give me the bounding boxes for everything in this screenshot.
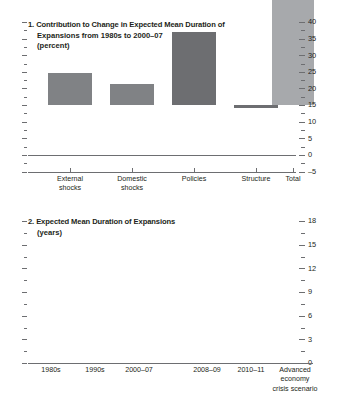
left-tick-minor xyxy=(24,30,27,31)
right-tick-major xyxy=(299,339,305,340)
right-tick-major xyxy=(299,138,305,139)
left-tick-major xyxy=(22,105,27,106)
x-tick xyxy=(293,168,294,172)
x-axis-label-domestic-shocks: Domestic shocks xyxy=(97,175,167,194)
panel-2: 2.Expected Mean Duration of Expansions (… xyxy=(0,200,349,410)
right-axis-label: 18 xyxy=(308,217,316,224)
right-tick-minor xyxy=(301,163,305,164)
right-tick-minor xyxy=(301,328,305,329)
x-axis-label-line: Domestic xyxy=(97,175,167,184)
x-axis-label-line: 2000–07 xyxy=(104,366,174,375)
x-axis-label-policies: Policies xyxy=(159,175,229,184)
right-tick-minor xyxy=(301,257,305,258)
left-tick-minor xyxy=(24,130,27,131)
left-tick-minor xyxy=(24,257,27,258)
left-tick-minor xyxy=(24,64,27,65)
right-tick-minor xyxy=(301,113,305,114)
left-tick-major xyxy=(22,268,27,269)
left-tick-major xyxy=(22,39,27,40)
left-tick-major xyxy=(22,122,27,123)
left-tick-major xyxy=(22,172,27,173)
right-tick-major xyxy=(299,172,305,173)
left-tick-minor xyxy=(24,304,27,305)
right-axis-label: 15 xyxy=(308,101,316,108)
left-tick-major xyxy=(22,72,27,73)
left-tick-major xyxy=(22,138,27,139)
right-axis-label: 10 xyxy=(308,118,316,125)
right-tick-minor xyxy=(301,30,305,31)
left-tick-major xyxy=(22,292,27,293)
right-axis-label: 15 xyxy=(308,241,316,248)
right-axis-label: 9 xyxy=(308,288,312,295)
right-axis-label: 35 xyxy=(308,35,316,42)
panel-2-title-line1: 2.Expected Mean Duration of Expansions xyxy=(28,217,175,228)
right-tick-major xyxy=(299,22,305,23)
x-tick xyxy=(132,168,133,172)
panel-2-title-text: Expected Mean Duration of Expansions xyxy=(36,217,175,226)
right-tick-major xyxy=(299,105,305,106)
right-tick-major xyxy=(299,292,305,293)
right-tick-major xyxy=(299,55,305,56)
right-tick-major xyxy=(299,268,305,269)
x-axis-label-external-shocks: External shocks xyxy=(35,175,105,194)
left-tick-minor xyxy=(24,47,27,48)
x-axis-label-line: Total xyxy=(258,175,328,184)
right-tick-minor xyxy=(301,97,305,98)
right-tick-minor xyxy=(301,233,305,234)
left-tick-major xyxy=(22,55,27,56)
right-tick-major xyxy=(299,221,305,222)
right-tick-minor xyxy=(301,147,305,148)
left-tick-minor xyxy=(24,147,27,148)
right-axis-label: 20 xyxy=(308,85,316,92)
right-tick-minor xyxy=(301,304,305,305)
panel-1-x-axis xyxy=(28,172,296,173)
left-tick-major xyxy=(22,339,27,340)
right-tick-major xyxy=(299,72,305,73)
left-tick-major xyxy=(22,22,27,23)
right-tick-major xyxy=(299,245,305,246)
x-axis-label-line: shocks xyxy=(97,184,167,193)
left-tick-minor xyxy=(24,328,27,329)
x-axis-label-2000-07: 2000–07 xyxy=(104,366,174,375)
right-axis-label: 12 xyxy=(308,265,316,272)
x-axis-label-line: External xyxy=(35,175,105,184)
bar-external-shocks xyxy=(48,73,92,105)
right-axis-label: 0 xyxy=(308,151,312,158)
x-tick xyxy=(194,168,195,172)
left-tick-minor xyxy=(24,351,27,352)
panel-1: 1.Contribution to Change in Expected Mea… xyxy=(0,0,349,200)
panel-1-plot xyxy=(28,22,296,172)
x-tick xyxy=(256,168,257,172)
x-axis-label-line: Policies xyxy=(159,175,229,184)
right-tick-major xyxy=(299,39,305,40)
right-axis-label: 3 xyxy=(308,336,312,343)
right-tick-major xyxy=(299,122,305,123)
left-tick-major xyxy=(22,88,27,89)
bar-structure xyxy=(234,105,278,108)
right-axis-label: 30 xyxy=(308,52,316,59)
right-axis-label: 40 xyxy=(308,18,316,25)
x-axis-label-advanced-economy-crisis-scenario: Advanced economy crisis scenario xyxy=(258,366,332,394)
right-tick-major xyxy=(299,155,305,156)
right-axis-label: 5 xyxy=(308,135,312,142)
right-tick-minor xyxy=(301,280,305,281)
right-tick-major xyxy=(299,88,305,89)
bar-domestic-shocks xyxy=(110,84,154,105)
right-tick-major xyxy=(299,316,305,317)
left-tick-minor xyxy=(24,233,27,234)
right-tick-minor xyxy=(301,47,305,48)
panel-1-zero-line xyxy=(28,155,296,156)
right-axis-label: 6 xyxy=(308,312,312,319)
bar-policies xyxy=(172,32,216,105)
right-tick-minor xyxy=(301,64,305,65)
x-axis-label-line: shocks xyxy=(35,184,105,193)
panel-2-x-axis xyxy=(28,363,313,364)
x-axis-label-line: economy xyxy=(258,375,332,384)
right-tick-minor xyxy=(301,130,305,131)
left-tick-major xyxy=(22,221,27,222)
panel-2-number: 2. xyxy=(28,217,34,226)
right-tick-minor xyxy=(301,351,305,352)
right-axis-label: 25 xyxy=(308,68,316,75)
figure-container: 1.Contribution to Change in Expected Mea… xyxy=(0,0,349,410)
left-tick-major xyxy=(22,316,27,317)
